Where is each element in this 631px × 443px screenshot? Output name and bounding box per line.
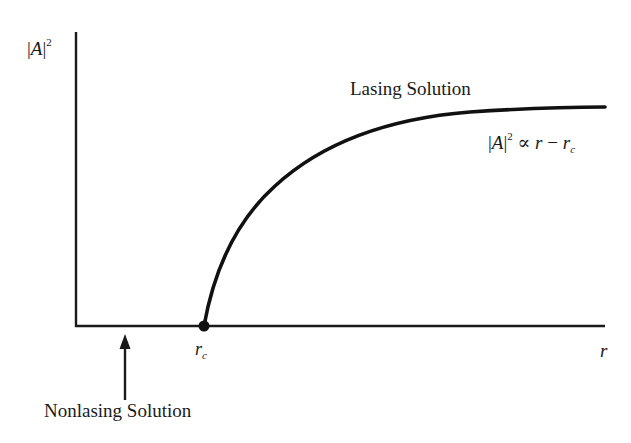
x-axis-label: r: [600, 340, 607, 362]
nonlasing-solution-label: Nonlasing Solution: [44, 400, 191, 422]
proportionality-formula: |A|2 ∝ r − rc: [488, 131, 575, 154]
diagram-canvas: |A|2 Lasing Solution |A|2 ∝ r − rc rc r …: [0, 0, 631, 443]
rc-base: r: [195, 339, 202, 359]
diagram-svg: [0, 0, 631, 443]
formula-constant-subscript: c: [570, 143, 575, 155]
y-label-exponent: 2: [46, 36, 52, 48]
y-axis-label: |A|2: [27, 38, 52, 60]
critical-point-marker: [199, 321, 210, 332]
formula-variable: r: [535, 132, 542, 153]
critical-point-label: rc: [195, 339, 207, 360]
arrow-up-icon: [120, 334, 131, 349]
rc-subscript: c: [202, 349, 207, 361]
formula-symbol: A: [492, 132, 504, 153]
formula-relation: ∝: [517, 132, 530, 153]
formula-minus: −: [547, 132, 558, 153]
lasing-solution-label: Lasing Solution: [350, 78, 471, 100]
y-label-symbol: A: [31, 38, 43, 59]
formula-constant: r: [563, 132, 570, 153]
formula-exponent: 2: [507, 130, 513, 142]
